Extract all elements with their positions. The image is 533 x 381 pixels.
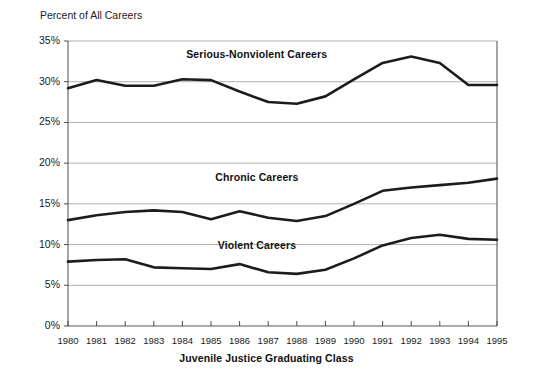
y-tick-label: 10% bbox=[20, 239, 60, 250]
series-label-1: Chronic Careers bbox=[215, 171, 298, 183]
x-axis-title: Juvenile Justice Graduating Class bbox=[0, 352, 533, 364]
y-tick-label: 20% bbox=[20, 157, 60, 168]
y-tick-label: 15% bbox=[20, 198, 60, 209]
series-label-0: Serious-Nonviolent Careers bbox=[186, 48, 327, 60]
x-tick-label: 1995 bbox=[480, 335, 514, 346]
series-line-0 bbox=[68, 56, 497, 103]
series-line-1 bbox=[68, 179, 497, 221]
y-tick-label: 30% bbox=[20, 76, 60, 87]
y-tick-label: 25% bbox=[20, 116, 60, 127]
chart-figure: Percent of All Careers 35%30%25%20%15%10… bbox=[0, 0, 533, 381]
y-tick-label: 5% bbox=[20, 279, 60, 290]
y-tick-label: 35% bbox=[20, 35, 60, 46]
y-tick-label: 0% bbox=[20, 320, 60, 331]
series-label-2: Violent Careers bbox=[218, 239, 296, 251]
